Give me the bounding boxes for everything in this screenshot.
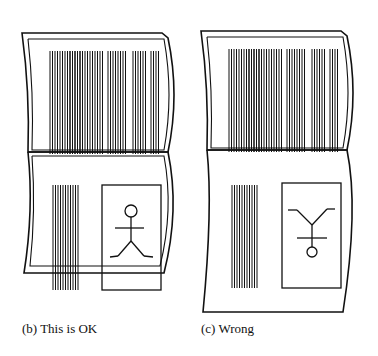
picture-frame-b [102, 185, 161, 290]
diagram [0, 0, 378, 356]
caption-c: (c) Wrong [201, 321, 254, 337]
picture-frame-c [282, 183, 341, 288]
caption-b: (b) This is OK [22, 321, 97, 337]
